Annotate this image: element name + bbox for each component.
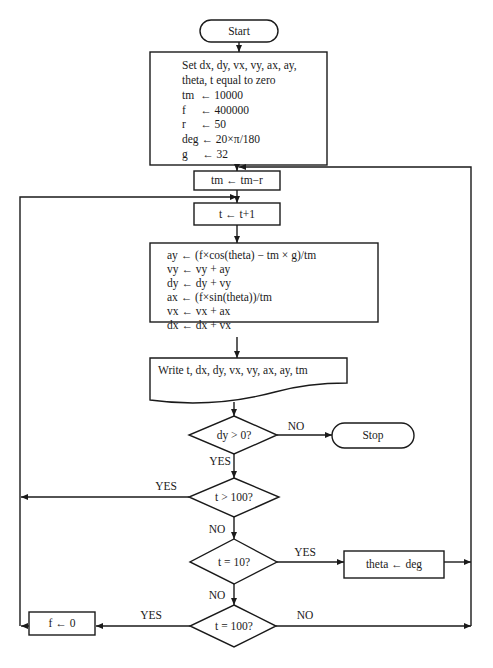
physics-line-2: dy ← dy + vy: [167, 277, 231, 290]
set-theta-label: theta ← deg: [366, 558, 422, 571]
mass-update-label: tm ← tm−r: [211, 174, 263, 186]
decision-t-gt-100: t > 100?: [189, 478, 279, 517]
time-step-label: t ← t+1: [219, 208, 255, 220]
decision-t-eq-100-label: t = 100?: [215, 620, 253, 632]
cut-thrust-box: f ← 0: [29, 612, 95, 635]
init-box: Set dx, dy, vx, vy, ax, ay, theta, t equ…: [150, 52, 327, 165]
stop-label: Stop: [362, 429, 383, 442]
t-gt-100-yes-label: YES: [155, 480, 177, 492]
init-line-6: g ← 32: [182, 148, 228, 161]
init-line-1: theta, t equal to zero: [182, 74, 276, 87]
physics-line-3: ax ← (f×sin(theta))/tm: [167, 291, 272, 304]
decision-t-eq-100: t = 100?: [190, 605, 276, 647]
mass-update-box: tm ← tm−r: [194, 171, 280, 190]
init-line-2: tm ← 10000: [182, 89, 243, 101]
physics-box: ay ← (f×cos(theta) − tm × g)/tm vy ← vy …: [150, 243, 378, 331]
physics-line-0: ay ← (f×cos(theta) − tm × g)/tm: [167, 249, 316, 262]
init-line-5: deg ← 20×π/180: [182, 133, 260, 146]
output-label: Write t, dx, dy, vx, vy, ax, ay, tm: [158, 364, 308, 377]
init-line-3: f ← 400000: [182, 104, 249, 116]
t-gt-100-no-label: NO: [209, 523, 226, 535]
dy-no-label: NO: [288, 420, 305, 432]
output-document: Write t, dx, dy, vx, vy, ax, ay, tm: [150, 358, 347, 403]
stop-terminator: Stop: [332, 423, 414, 448]
physics-line-4: vx ← vx + ax: [167, 305, 231, 317]
set-theta-box: theta ← deg: [344, 551, 444, 578]
decision-dy-label: dy > 0?: [217, 429, 252, 442]
decision-dy-positive: dy > 0?: [189, 416, 277, 454]
t-eq-10-no-label: NO: [209, 589, 226, 601]
physics-line-5: dx ← dx + vx: [167, 319, 231, 331]
start-label: Start: [228, 25, 251, 37]
start-terminator: Start: [200, 20, 278, 42]
t-eq-100-yes-label: YES: [140, 609, 162, 621]
dy-yes-label: YES: [209, 455, 231, 467]
init-line-0: Set dx, dy, vx, vy, ax, ay,: [182, 59, 297, 72]
flowchart: Start Set dx, dy, vx, vy, ax, ay, theta,…: [0, 0, 493, 668]
decision-t-gt-100-label: t > 100?: [215, 491, 253, 503]
time-step-box: t ← t+1: [194, 203, 280, 225]
decision-t-eq-10-label: t = 10?: [218, 556, 250, 568]
decision-t-eq-10: t = 10?: [190, 539, 277, 584]
init-line-4: r ← 50: [182, 118, 226, 130]
cut-thrust-label: f ← 0: [49, 617, 76, 629]
t-eq-100-no-label: NO: [297, 609, 314, 621]
physics-line-1: vy ← vy + ay: [167, 263, 231, 276]
t-eq-10-yes-label: YES: [294, 546, 316, 558]
